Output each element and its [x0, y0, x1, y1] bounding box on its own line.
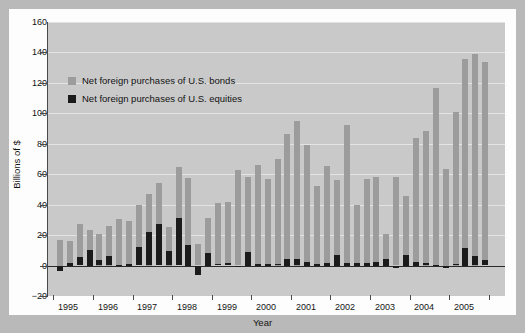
x-axis-tick-label: 2005 — [444, 302, 484, 312]
x-axis-tick-label: 2004 — [404, 302, 444, 312]
bar-bonds — [373, 177, 379, 266]
legend-label-equities: Net foreign purchases of U.S. equities — [82, 93, 242, 104]
x-axis-tick-label: 2002 — [325, 302, 365, 312]
bar-equities — [413, 262, 419, 266]
x-axis-tick — [410, 295, 411, 300]
y-axis-tick — [40, 113, 48, 114]
bar-bonds — [443, 169, 449, 266]
legend-swatch-equities-icon — [68, 95, 76, 103]
bar-equities — [106, 256, 112, 265]
y-axis-tick — [40, 52, 48, 53]
bar-bonds — [265, 179, 271, 266]
x-axis-tick-label: 2000 — [246, 302, 286, 312]
legend-label-bonds: Net foreign purchases of U.S. bonds — [82, 75, 235, 86]
x-axis-tick — [53, 295, 54, 300]
gridline — [48, 52, 505, 53]
bar-bonds — [344, 125, 350, 266]
x-axis-tick-label: 2001 — [286, 302, 326, 312]
bar-bonds — [413, 138, 419, 265]
bar-bonds — [423, 131, 429, 266]
plot-area — [48, 22, 505, 296]
bar-bonds — [364, 179, 370, 266]
x-axis-tick-label: 1999 — [207, 302, 247, 312]
y-axis-tick — [40, 83, 48, 84]
x-axis-tick — [212, 295, 213, 300]
bar-equities — [166, 251, 172, 265]
bar-equities — [245, 252, 251, 266]
bar-equities — [185, 245, 191, 266]
bar-equities — [176, 218, 182, 265]
bar-equities — [294, 259, 300, 265]
bar-equities — [96, 260, 102, 265]
bar-equities — [136, 247, 142, 265]
y-axis-tick — [40, 144, 48, 145]
bar-equities — [215, 264, 221, 265]
bar-bonds — [275, 159, 281, 266]
bar-equities — [364, 263, 370, 266]
bar-equities — [225, 263, 231, 265]
x-axis-tick-label: 1996 — [88, 302, 128, 312]
bar-bonds — [57, 240, 63, 266]
bar-equities — [373, 262, 379, 266]
bar-bonds — [433, 88, 439, 265]
x-axis-tick — [133, 295, 134, 300]
y-axis-tick — [40, 266, 48, 267]
x-axis-tick — [449, 295, 450, 300]
bar-equities — [255, 264, 261, 266]
x-axis-tick-label: 2003 — [365, 302, 405, 312]
bar-equities — [443, 266, 449, 268]
bar-equities — [156, 224, 162, 265]
chart-legend: Net foreign purchases of U.S. bonds Net … — [68, 75, 242, 111]
chart-plot-container: Net foreign purchases of U.S. bonds Net … — [48, 22, 505, 296]
y-axis-title: Billions of $ — [11, 75, 22, 255]
bar-equities — [265, 264, 271, 266]
bar-equities — [77, 257, 83, 265]
x-axis-tick-label: 1995 — [48, 302, 88, 312]
bar-bonds — [195, 244, 201, 265]
bar-equities — [304, 262, 310, 266]
legend-item-bonds: Net foreign purchases of U.S. bonds — [68, 75, 242, 86]
y-axis-tick — [40, 296, 48, 297]
bar-equities — [275, 264, 281, 265]
bar-equities — [453, 264, 459, 265]
bar-equities — [67, 263, 73, 266]
bar-bonds — [354, 205, 360, 265]
y-axis-tick-label: 160 — [17, 18, 47, 27]
bar-equities — [354, 263, 360, 266]
bar-bonds — [304, 145, 310, 265]
bar-equities — [314, 264, 320, 266]
legend-item-equities: Net foreign purchases of U.S. equities — [68, 93, 242, 104]
bar-bonds — [116, 219, 122, 265]
bar-equities — [116, 265, 122, 266]
bar-equities — [235, 266, 241, 267]
bar-equities — [146, 232, 152, 265]
bar-equities — [403, 255, 409, 266]
bar-equities — [433, 265, 439, 266]
bar-bonds — [462, 59, 468, 266]
bar-equities — [383, 259, 389, 266]
gridline — [48, 22, 505, 23]
bar-bonds — [334, 180, 340, 266]
x-axis-tick — [93, 295, 94, 300]
bar-bonds — [126, 221, 132, 266]
bar-bonds — [255, 165, 261, 265]
bar-equities — [324, 263, 330, 266]
y-axis-tick — [40, 174, 48, 175]
bar-bonds — [324, 166, 330, 266]
y-axis-tick — [40, 235, 48, 236]
legend-swatch-bonds-icon — [68, 77, 76, 85]
bar-equities — [393, 266, 399, 268]
x-axis-tick — [330, 295, 331, 300]
bar-bonds — [314, 186, 320, 265]
bar-equities — [87, 250, 93, 266]
bar-equities — [284, 259, 290, 266]
x-axis-tick — [172, 295, 173, 300]
chart-screenshot: −20020406080100120140160 Billions of $ N… — [0, 0, 525, 333]
bar-equities — [57, 266, 63, 271]
bar-equities — [482, 260, 488, 265]
bar-equities — [344, 263, 350, 266]
x-axis-tick — [489, 295, 490, 300]
bar-bonds — [482, 62, 488, 265]
bar-equities — [472, 256, 478, 265]
zero-line — [48, 266, 505, 267]
